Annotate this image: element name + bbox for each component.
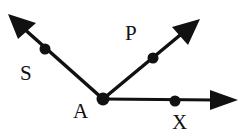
label-a: A <box>73 99 89 123</box>
label-x: X <box>172 110 187 134</box>
rays-diagram: S P A X <box>0 0 240 136</box>
label-s: S <box>20 61 32 85</box>
point-p-dot <box>148 53 159 64</box>
ray-ax <box>103 90 238 110</box>
ray-as <box>8 14 103 99</box>
label-p: P <box>125 21 137 45</box>
arrowhead-x-icon <box>210 90 238 110</box>
point-x-dot <box>170 96 181 107</box>
vertex-a-dot <box>97 93 110 106</box>
arrowhead-p-icon <box>172 19 200 45</box>
point-s-dot <box>40 44 51 55</box>
ray-ap <box>103 19 200 99</box>
